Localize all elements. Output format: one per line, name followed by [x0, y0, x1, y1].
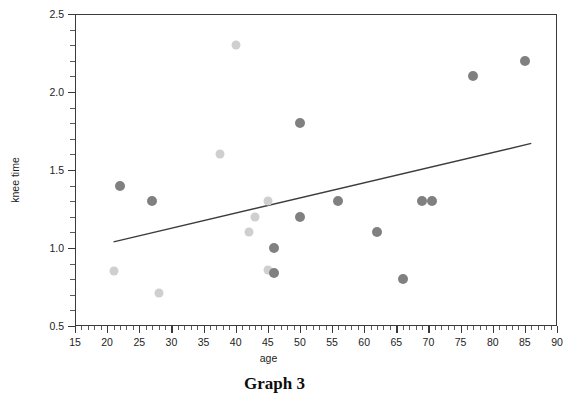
x-tick-major	[332, 326, 333, 333]
x-tick-major	[171, 326, 172, 333]
x-tick-label-text: 40	[230, 336, 242, 348]
x-tick-minor	[441, 326, 442, 330]
x-tick-major	[396, 326, 397, 333]
y-tick-minor	[70, 217, 75, 218]
y-axis-title: knee time	[8, 145, 22, 215]
x-tick-label-text: 75	[455, 336, 467, 348]
y-tick-label: 2.0	[0, 92, 64, 93]
x-tick-minor	[473, 326, 474, 330]
x-tick-major	[364, 326, 365, 333]
x-tick-minor	[416, 326, 417, 330]
scatter-point	[115, 181, 125, 191]
x-tick-minor	[88, 326, 89, 330]
y-tick-minor	[70, 232, 75, 233]
x-tick-label-text: 60	[358, 336, 370, 348]
x-tick-label-text: 90	[551, 336, 563, 348]
scatter-point	[250, 212, 259, 221]
x-tick-minor	[486, 326, 487, 330]
x-tick-minor	[281, 326, 282, 330]
x-tick-major	[236, 326, 237, 333]
x-tick-minor	[120, 326, 121, 330]
y-tick-minor	[70, 61, 75, 62]
x-tick-minor	[506, 326, 507, 330]
x-tick-minor	[261, 326, 262, 330]
x-tick-minor	[377, 326, 378, 330]
scatter-point	[215, 150, 224, 159]
x-tick-minor	[448, 326, 449, 330]
x-tick-major	[107, 326, 108, 333]
y-tick-label-text: 2.0	[49, 86, 64, 98]
x-tick-label-text: 85	[519, 336, 531, 348]
x-tick-minor	[345, 326, 346, 330]
x-tick-label-text: 50	[294, 336, 306, 348]
y-tick-minor	[70, 264, 75, 265]
x-tick-label-text: 45	[262, 336, 274, 348]
x-tick-label-text: 35	[198, 336, 210, 348]
x-tick-minor	[216, 326, 217, 330]
scatter-point	[468, 71, 478, 81]
x-tick-minor	[306, 326, 307, 330]
x-tick-minor	[358, 326, 359, 330]
x-tick-minor	[518, 326, 519, 330]
y-tick-label-text: 2.5	[49, 8, 64, 20]
y-tick-minor	[70, 139, 75, 140]
chart-figure: 0.51.01.52.02.5 152025303540455055606570…	[0, 0, 579, 407]
y-tick-minor	[70, 186, 75, 187]
x-tick-label-text: 30	[166, 336, 178, 348]
x-tick-minor	[512, 326, 513, 330]
scatter-point	[263, 197, 272, 206]
trendline	[114, 143, 532, 241]
x-tick-minor	[326, 326, 327, 330]
scatter-point	[333, 196, 343, 206]
scatter-point	[520, 56, 530, 66]
x-tick-minor	[371, 326, 372, 330]
x-tick-minor	[101, 326, 102, 330]
y-tick-minor	[70, 154, 75, 155]
x-tick-major	[268, 326, 269, 333]
x-tick-minor	[383, 326, 384, 330]
x-tick-major	[75, 326, 76, 333]
y-tick-label: 1.0	[0, 248, 64, 249]
scatter-point	[398, 274, 408, 284]
x-tick-minor	[467, 326, 468, 330]
x-tick-minor	[454, 326, 455, 330]
x-tick-minor	[178, 326, 179, 330]
x-tick-label-text: 15	[69, 336, 81, 348]
y-tick-minor	[70, 30, 75, 31]
x-tick-minor	[191, 326, 192, 330]
x-tick-minor	[499, 326, 500, 330]
x-tick-major	[525, 326, 526, 333]
x-tick-major	[493, 326, 494, 333]
figure-caption: Graph 3	[0, 374, 579, 394]
x-tick-minor	[313, 326, 314, 330]
scatter-point	[147, 196, 157, 206]
y-axis-title-text: knee time	[9, 157, 21, 203]
y-tick-minor	[70, 45, 75, 46]
x-tick-minor	[403, 326, 404, 330]
y-tick-minor	[70, 123, 75, 124]
y-tick-label: 0.5	[0, 326, 64, 327]
y-tick-major	[68, 170, 75, 171]
x-tick-minor	[409, 326, 410, 330]
x-tick-label-text: 65	[390, 336, 402, 348]
scatter-point	[269, 268, 279, 278]
y-tick-label-text: 1.5	[49, 164, 64, 176]
x-tick-minor	[126, 326, 127, 330]
scatter-point	[269, 243, 279, 253]
scatter-point	[231, 41, 240, 50]
x-tick-minor	[544, 326, 545, 330]
y-tick-minor	[70, 279, 75, 280]
x-tick-minor	[146, 326, 147, 330]
x-tick-minor	[531, 326, 532, 330]
y-tick-major	[68, 14, 75, 15]
x-tick-minor	[152, 326, 153, 330]
scatter-point	[417, 196, 427, 206]
y-tick-major	[68, 326, 75, 327]
x-tick-minor	[422, 326, 423, 330]
x-tick-minor	[229, 326, 230, 330]
x-tick-minor	[81, 326, 82, 330]
y-tick-label-text: 0.5	[49, 320, 64, 332]
scatter-point	[295, 118, 305, 128]
x-tick-minor	[390, 326, 391, 330]
x-tick-minor	[165, 326, 166, 330]
